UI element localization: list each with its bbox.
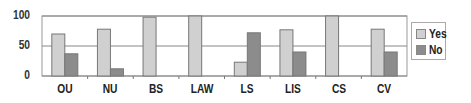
bar-yes bbox=[371, 29, 384, 76]
bar-no bbox=[293, 52, 306, 76]
x-tick-label: LIS bbox=[276, 82, 310, 96]
bar-no bbox=[110, 69, 123, 76]
bar-yes bbox=[326, 16, 339, 76]
bar-no bbox=[384, 52, 397, 76]
x-tick-label: LAW bbox=[185, 82, 219, 96]
x-tick-label: NU bbox=[93, 82, 127, 96]
x-tick-label: LS bbox=[230, 82, 264, 96]
legend-swatch-yes bbox=[416, 29, 426, 39]
legend-label-yes: Yes bbox=[429, 27, 447, 41]
x-tick-label: CV bbox=[367, 82, 401, 96]
y-tick-label: 0 bbox=[6, 68, 30, 82]
bar-no bbox=[247, 33, 260, 76]
x-tick-label: BS bbox=[139, 82, 173, 96]
bar-yes bbox=[234, 62, 247, 76]
x-tick-label: OU bbox=[48, 82, 82, 96]
legend: Yes No bbox=[411, 22, 446, 60]
legend-item-yes: Yes bbox=[416, 28, 450, 40]
y-tick-label: 100 bbox=[6, 8, 30, 22]
bar-no bbox=[65, 54, 78, 76]
bar-yes bbox=[280, 30, 293, 76]
legend-swatch-no bbox=[416, 45, 426, 55]
legend-label-no: No bbox=[429, 43, 443, 57]
y-tick-label: 50 bbox=[6, 38, 30, 52]
legend-item-no: No bbox=[416, 44, 445, 56]
bar-yes bbox=[143, 17, 156, 76]
bar-yes bbox=[189, 16, 202, 76]
bar-chart: 050100 OUNUBSLAWLSLISCSCV Yes No bbox=[0, 0, 471, 103]
bar-yes bbox=[97, 29, 110, 76]
bar-yes bbox=[52, 34, 65, 76]
x-tick-label: CS bbox=[322, 82, 356, 96]
